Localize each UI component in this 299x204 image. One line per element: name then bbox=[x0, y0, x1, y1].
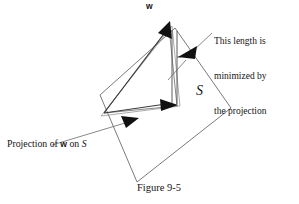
w-vector-shaft bbox=[104, 30, 167, 113]
callout-line-3: the projection bbox=[214, 106, 267, 118]
callout-line-2: minimized by bbox=[214, 71, 267, 83]
figure-9-5: w S This length is minimized by the proj… bbox=[0, 0, 299, 204]
figure-number-caption: Figure 9-5 bbox=[137, 182, 181, 194]
length-callout-text: This length is minimized by the projecti… bbox=[214, 13, 267, 140]
projection-leader-arrowhead bbox=[121, 116, 139, 128]
projection-caption: Projection of w on S bbox=[7, 139, 87, 150]
w-vector-label: w bbox=[146, 2, 153, 12]
projection-caption-prefix: Projection of bbox=[7, 138, 60, 149]
projection-caption-plane: S bbox=[82, 138, 87, 149]
projection-caption-middle: on bbox=[67, 138, 82, 149]
callout-line-1: This length is bbox=[214, 36, 267, 48]
callout-arrowhead bbox=[178, 46, 197, 59]
projection-vector-arrowhead bbox=[160, 99, 178, 111]
vector-triangle bbox=[104, 27, 177, 113]
w-vector-arrowhead bbox=[158, 21, 172, 39]
plane-s-label: S bbox=[196, 83, 203, 99]
projection-caption-vector: w bbox=[60, 139, 67, 149]
